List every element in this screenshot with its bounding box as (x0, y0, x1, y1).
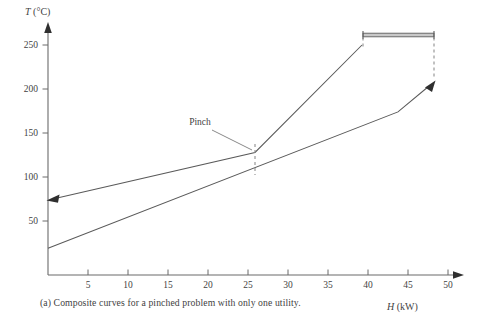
x-tick-label-15: 15 (163, 280, 173, 290)
y-tick-label-250: 250 (24, 40, 39, 50)
series-hot-utility-bar (363, 31, 434, 39)
pinch-leader-line (212, 130, 252, 150)
x-tick-label-35: 35 (323, 280, 333, 290)
y-axis-arrow-icon (44, 22, 52, 33)
pinch-label: Pinch (189, 117, 211, 127)
figure-caption: (a) Composite curves for a pinched probl… (40, 297, 301, 308)
y-axis-title: T (°C) (25, 6, 50, 18)
cold-composite-curve-path (48, 87, 429, 249)
composite-curves-chart: 250 200 150 100 50 5 10 15 20 25 (0, 0, 487, 326)
x-tick-label-20: 20 (203, 280, 213, 290)
series-cold-composite-curve (48, 81, 436, 249)
x-axis-title: H (kW) (386, 301, 418, 313)
y-tick-label-100: 100 (24, 172, 39, 182)
x-axis-title-unit: (kW) (394, 301, 418, 313)
x-tick-label-5: 5 (86, 280, 91, 290)
y-tick-label-200: 200 (24, 84, 39, 94)
x-tick-label-30: 30 (283, 280, 293, 290)
composite-curves-figure: 250 200 150 100 50 5 10 15 20 25 (0, 0, 487, 326)
x-axis-arrow-icon (453, 271, 464, 279)
cold-curve-arrow-icon (425, 81, 436, 93)
y-axis-title-unit: (°C) (31, 6, 51, 18)
y-axis: 250 200 150 100 50 (24, 22, 52, 275)
y-tick-label-50: 50 (29, 216, 39, 226)
x-tick-label-10: 10 (123, 280, 133, 290)
y-tick-label-150: 150 (24, 128, 39, 138)
x-tick-label-45: 45 (403, 280, 413, 290)
x-axis: 5 10 15 20 25 30 35 40 45 50 (48, 270, 464, 291)
x-tick-label-50: 50 (443, 280, 453, 290)
hot-utility-bar (363, 33, 434, 37)
pinch-annotation: Pinch (189, 117, 252, 150)
x-tick-label-40: 40 (363, 280, 373, 290)
x-tick-label-25: 25 (243, 280, 253, 290)
